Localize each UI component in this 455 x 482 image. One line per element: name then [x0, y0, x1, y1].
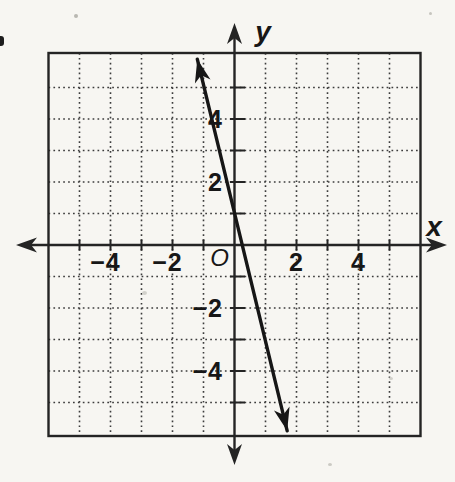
- x-tick-label: 4: [351, 248, 366, 276]
- paper-speck: [389, 377, 393, 380]
- y-axis-label: y: [253, 16, 272, 47]
- y-tick-label: −2: [192, 294, 223, 322]
- origin-label: O: [210, 244, 229, 271]
- worksheet-page: −4−22442−2−4Oxy: [0, 0, 455, 482]
- x-tick-label: −2: [152, 248, 183, 276]
- y-tick-label: 2: [208, 168, 223, 196]
- x-tick-label: 2: [289, 248, 304, 276]
- paper-speck: [328, 463, 332, 466]
- paper-speck: [429, 12, 432, 15]
- x-axis-label: x: [424, 211, 443, 242]
- x-tick-label: −4: [90, 248, 121, 276]
- scan-artifact: [0, 36, 4, 46]
- paper-speck: [74, 14, 78, 18]
- paper-speck: [142, 291, 147, 295]
- y-tick-label: −4: [192, 357, 223, 385]
- coordinate-plane: −4−22442−2−4Oxy: [0, 0, 455, 482]
